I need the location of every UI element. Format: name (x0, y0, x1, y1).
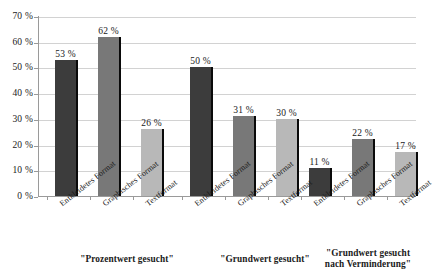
gridline (39, 94, 416, 95)
y-axis: 0 %10 %20 %30 %40 %50 %60 %70 % (0, 0, 36, 277)
y-axis-tick-label: 20 % (12, 140, 33, 150)
y-axis-tick-label: 30 % (12, 114, 33, 124)
bar-value-label: 62 % (92, 26, 125, 36)
bar-value-label: 22 % (346, 128, 379, 138)
bar (55, 60, 78, 196)
y-axis-tick-mark (34, 17, 38, 18)
gridline (39, 43, 416, 44)
y-axis-tick-mark (34, 197, 38, 198)
x-axis-tick-mark (182, 197, 183, 200)
bar-value-label: 26 % (135, 118, 168, 128)
y-axis-tick-mark (34, 43, 38, 44)
bar (276, 119, 299, 196)
y-axis-tick-label: 40 % (12, 88, 33, 98)
x-axis-tick-mark (268, 197, 269, 200)
bar-value-label: 11 % (303, 157, 336, 167)
y-axis-tick-label: 70 % (12, 11, 33, 21)
bar-value-label: 50 % (184, 56, 217, 66)
gridline (39, 17, 416, 18)
y-axis-tick-mark (34, 120, 38, 121)
x-axis-tick-mark (133, 197, 134, 200)
x-axis-tick-mark (387, 197, 388, 200)
bar (190, 67, 213, 196)
gridline (39, 120, 416, 121)
bar-value-label: 30 % (270, 108, 303, 118)
y-axis-tick-label: 60 % (12, 37, 33, 47)
y-axis-tick-label: 50 % (12, 62, 33, 72)
bar (233, 116, 256, 196)
x-axis-tick-mark (47, 197, 48, 200)
bar-value-label: 53 % (49, 49, 82, 59)
y-axis-tick-label: 0 % (17, 191, 33, 201)
gridline (39, 68, 416, 69)
y-axis-tick-label: 10 % (12, 165, 33, 175)
x-axis-tick-mark (90, 197, 91, 200)
x-axis-tick-mark (301, 197, 302, 200)
bar-value-label: 31 % (227, 105, 260, 115)
y-axis-tick-mark (34, 94, 38, 95)
bar-value-label: 17 % (389, 141, 422, 151)
x-axis-tick-mark (225, 197, 226, 200)
y-axis-tick-mark (34, 171, 38, 172)
x-axis-tick-mark (344, 197, 345, 200)
group-label: "Grundwert gesucht nach Verminderung" (310, 248, 426, 270)
group-label: "Prozentwert gesucht" (52, 254, 202, 265)
y-axis-tick-mark (34, 146, 38, 147)
y-axis-tick-mark (34, 68, 38, 69)
